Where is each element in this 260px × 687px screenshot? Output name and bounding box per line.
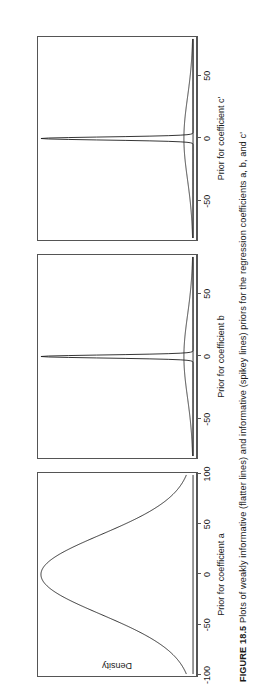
curve-weakly-informative-b xyxy=(184,257,193,456)
plot-area-a xyxy=(38,473,196,676)
x-axis-line-a xyxy=(197,472,198,677)
x-tick xyxy=(197,75,201,76)
x-tick-label: 0 xyxy=(202,136,212,141)
plot-area-b xyxy=(38,255,196,458)
x-tick-label: -50 xyxy=(202,413,212,426)
x-axis-b: -50050 Prior for coefficient b xyxy=(197,254,227,459)
density-curves-a xyxy=(38,473,196,676)
panel-row: -100-50050100 Prior for coefficient a -5… xyxy=(0,0,232,687)
x-tick xyxy=(197,674,201,675)
x-axis-title-b: Prior for coefficient b xyxy=(216,254,226,459)
x-axis-a: -100-50050100 Prior for coefficient a xyxy=(197,472,227,677)
curve-weakly-informative-a xyxy=(41,475,186,674)
x-axis-line-b xyxy=(197,254,198,459)
x-axis-c-prime: -50050 Prior for coefficient c' xyxy=(197,36,227,241)
figure-caption-text: Plots of weakly informative (flatter lin… xyxy=(238,132,248,623)
figure-canvas: -100-50050100 Prior for coefficient a -5… xyxy=(0,0,232,687)
x-tick xyxy=(197,293,201,294)
density-curves-c-prime xyxy=(38,37,196,240)
x-tick-label: 100 xyxy=(202,466,212,481)
x-tick xyxy=(197,523,201,524)
x-tick-label: -50 xyxy=(202,195,212,208)
x-tick xyxy=(197,574,201,575)
density-panel-b xyxy=(37,254,197,459)
x-tick-label: 0 xyxy=(202,572,212,577)
x-tick xyxy=(197,418,201,419)
x-tick-label: -100 xyxy=(202,666,212,684)
curve-weakly-informative-c-prime xyxy=(184,39,193,238)
x-tick xyxy=(197,138,201,139)
x-tick xyxy=(197,200,201,201)
curve-informative-c-prime xyxy=(41,39,193,238)
x-tick-label: 50 xyxy=(202,519,212,529)
figure-caption: FIGURE 18.5 Plots of weakly informative … xyxy=(238,22,249,682)
density-panel-c-prime xyxy=(37,36,197,241)
figure-caption-label: FIGURE 18.5 xyxy=(238,626,248,682)
x-axis-title-a: Prior for coefficient a xyxy=(216,472,226,677)
curve-informative-b xyxy=(41,257,193,456)
x-axis-line-c-prime xyxy=(197,36,198,241)
x-tick-label: -50 xyxy=(202,618,212,631)
x-tick xyxy=(197,624,201,625)
x-tick-label: 0 xyxy=(202,354,212,359)
plot-area-c-prime xyxy=(38,37,196,240)
density-panel-a xyxy=(37,472,197,677)
density-curves-b xyxy=(38,255,196,458)
x-tick xyxy=(197,356,201,357)
y-axis-label: Density xyxy=(37,661,197,671)
x-tick-label: 50 xyxy=(202,289,212,299)
x-axis-title-c-prime: Prior for coefficient c' xyxy=(216,36,226,241)
x-tick-label: 50 xyxy=(202,71,212,81)
x-tick xyxy=(197,473,201,474)
